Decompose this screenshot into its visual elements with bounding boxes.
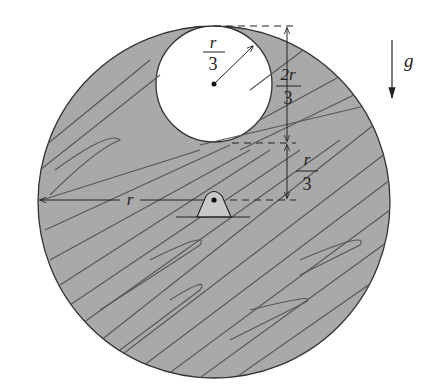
offset-den: 3 [284, 88, 293, 108]
gap-den: 3 [303, 174, 312, 194]
hole-radius-label: r 3 [203, 33, 225, 74]
disk-radius-label: r [127, 190, 134, 209]
offset-num: 2r [280, 65, 296, 84]
hole-radius-num: r [210, 33, 217, 52]
hole-radius-den: 3 [209, 54, 218, 74]
pivot-point [211, 197, 216, 202]
gravity-indicator: g [392, 40, 414, 98]
disk-diagram: r 3 2r 3 r 3 r g [0, 0, 431, 391]
gravity-label: g [404, 50, 414, 71]
gap-num: r [304, 150, 311, 169]
